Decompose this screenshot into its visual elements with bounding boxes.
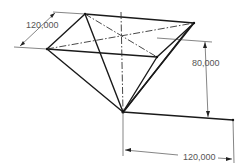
base-line: [123, 112, 233, 120]
height-label: 80,000: [192, 58, 220, 68]
top-width-label: 120,000: [26, 20, 59, 30]
dimension-top-width: 120,000: [14, 12, 85, 49]
dimension-height: 80,000: [157, 38, 220, 117]
bottom-width-label: 120,000: [183, 152, 216, 162]
dimension-bottom-width: 120,000: [123, 112, 234, 163]
pyramid-drawing: 120,000 80,000 120,000: [0, 0, 247, 168]
center-axis: [121, 12, 123, 112]
